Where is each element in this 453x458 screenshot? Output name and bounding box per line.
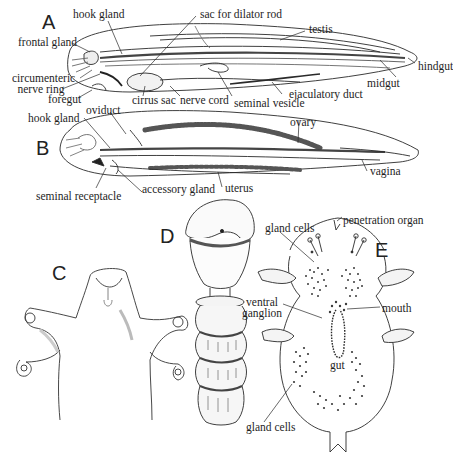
label-hook-gland-a: hook gland (73, 9, 124, 21)
label-ovary: ovary (290, 117, 316, 129)
label-penetration-organ: penetration organ (343, 215, 424, 227)
label-midgut: midgut (367, 78, 400, 90)
panel-a-drawing (68, 24, 417, 92)
label-oviduct: oviduct (86, 105, 121, 117)
label-gland-cells-top: gland cells (265, 223, 315, 235)
label-uterus: uterus (225, 183, 253, 195)
label-cirrus-sac: cirrus sac (132, 95, 176, 107)
label-sac-for-dilator-rod: sac for dilator rod (200, 9, 282, 21)
label-nerve-cord: nerve cord (180, 95, 229, 107)
label-foregut: foregut (48, 94, 81, 106)
panel-letter-e: E (375, 240, 388, 260)
panel-e-drawing (258, 218, 414, 452)
panel-letter-a: A (42, 12, 55, 32)
label-frontal-gland: frontal gland (18, 37, 77, 49)
label-seminal-receptacle: seminal receptacle (36, 191, 121, 203)
label-ejaculatory-duct: ejaculatory duct (289, 89, 363, 101)
label-mouth: mouth (382, 303, 411, 315)
panel-letter-c: C (52, 263, 66, 283)
label-vagina: vagina (370, 166, 401, 178)
panel-letter-d: D (160, 226, 174, 246)
panel-c-drawing (17, 269, 188, 420)
panel-e-gland-cells (293, 267, 365, 411)
label-gland-cells-bottom: gland cells (246, 422, 296, 434)
label-accessory-gland: accessory gland (142, 184, 215, 196)
panel-letter-b: B (36, 138, 49, 158)
label-hindgut: hindgut (418, 61, 453, 73)
label-testis: testis (309, 24, 333, 36)
label-gut: gut (330, 360, 345, 372)
label-ganglion-line2: ganglion (239, 308, 285, 320)
label-hook-gland-b: hook gland (28, 113, 79, 125)
